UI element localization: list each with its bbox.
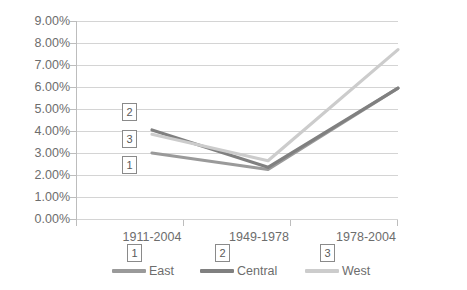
legend-item-central[interactable]: Central [200, 262, 277, 280]
y-axis-line [76, 21, 77, 220]
legend-callout-central: 2 [215, 244, 230, 262]
y-tick-label: 1.00% [14, 191, 70, 203]
y-tick-label: 3.00% [14, 147, 70, 159]
chart-legend: East Central West [0, 262, 467, 282]
legend-label-central: Central [237, 264, 277, 278]
legend-label-west: West [342, 264, 370, 278]
legend-label-east: East [149, 264, 174, 278]
legend-callout-east: 1 [127, 244, 142, 262]
y-tick-label: 7.00% [14, 59, 70, 71]
legend-item-east[interactable]: East [112, 262, 174, 280]
legend-swatch-west [305, 269, 339, 273]
y-tick-label: 4.00% [14, 125, 70, 137]
y-tick-label: 2.00% [14, 169, 70, 181]
legend-swatch-east [112, 269, 146, 273]
legend-item-west[interactable]: West [305, 262, 370, 280]
y-tick-label: 8.00% [14, 37, 70, 49]
y-tick-label: 5.00% [14, 103, 70, 115]
line-chart: 9.00% 8.00% 7.00% 6.00% 5.00% 4.00% 3.00… [0, 0, 467, 290]
callout-box-west: 3 [122, 130, 137, 148]
x-tick-label: 1949-1978 [205, 230, 313, 244]
legend-callout-west: 3 [320, 244, 335, 262]
callout-box-central: 2 [122, 103, 137, 121]
y-tick-label: 0.00% [14, 213, 70, 225]
legend-swatch-central [200, 269, 234, 273]
x-tick-label: 1978-2004 [312, 230, 420, 244]
y-tick-label: 6.00% [14, 81, 70, 93]
y-tick-label: 9.00% [14, 15, 70, 27]
callout-box-east: 1 [122, 156, 137, 174]
y-axis-labels: 9.00% 8.00% 7.00% 6.00% 5.00% 4.00% 3.00… [12, 0, 70, 290]
x-tick-label: 1911-2004 [98, 230, 206, 244]
